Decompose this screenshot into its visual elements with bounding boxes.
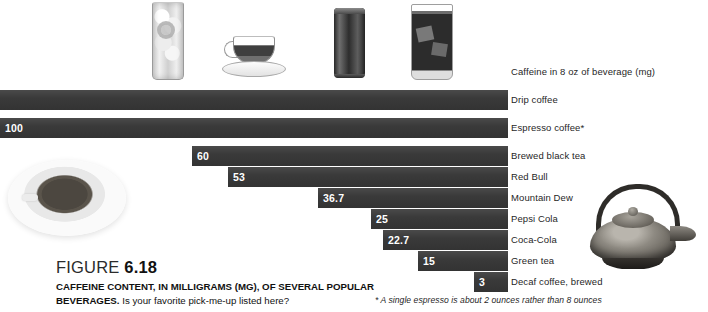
bar [0,118,508,138]
bar-value-label: 36.7 [318,188,344,208]
iced-cola-glass-photo [411,4,453,80]
figure-6-18: Caffeine in 8 oz of beverage (mg) Drip c… [0,0,708,312]
bar [318,188,508,208]
figure-description: CAFFEINE CONTENT, IN MILLIGRAMS (MG), OF… [56,280,416,307]
figure-caption: FIGURE 6.18 CAFFEINE CONTENT, IN MILLIGR… [56,258,416,307]
bar-row: 53Red Bull [0,167,708,187]
figure-footnote: * A single espresso is about 2 ounces ra… [375,295,705,305]
ice-cube-icon [416,25,435,42]
bar-category-label: Green tea [511,251,554,271]
bar-category-label: Coca-Cola [511,230,557,250]
bar-value-label: 60 [192,146,209,166]
ice-cube-icon [431,42,448,57]
bar [371,209,508,229]
figure-number-line: FIGURE 6.18 [56,258,416,277]
glass-teacup-photo [222,36,284,78]
bar-value-label: 100 [0,118,23,138]
bar-value-label: 22.7 [383,230,409,250]
bar-category-label: Brewed black tea [511,146,585,166]
bar-value-label: 15 [418,251,435,271]
iced-lemon-drink-photo [152,2,184,80]
bar-value-label: 25 [371,209,388,229]
bar [228,167,508,187]
bar [192,146,508,166]
bar-row: 60Brewed black tea [0,146,708,166]
legend-title: Caffeine in 8 oz of beverage (mg) [511,66,701,79]
bar-category-label: Decaf coffee, brewed [511,272,603,292]
teacup-saucer [222,61,286,77]
bar-row: 36.7Mountain Dew [0,188,708,208]
bar-category-label: Pepsi Cola [511,209,558,229]
can-base [334,74,365,78]
bar-category-label: Red Bull [511,167,548,187]
lemon-slice-icon [157,21,175,39]
cola-glass-rim [412,11,452,14]
figure-number: 6.18 [124,258,157,276]
can-lid [334,8,365,14]
bar-row: 25Pepsi Cola [0,209,708,229]
bar-row: Drip coffee [0,90,708,110]
energy-drink-can-photo [334,8,365,78]
bar-row: 22.7Coca-Cola [0,230,708,250]
bar-value-label: 3 [474,272,485,292]
bar-category-label: Mountain Dew [511,188,573,208]
figure-title-rest: Is your favorite pick-me-up listed here? [120,295,290,306]
bar-category-label: Espresso coffee* [511,118,584,138]
bar [0,90,508,110]
figure-number-prefix: FIGURE [56,258,124,276]
bar-row: 100Espresso coffee* [0,118,708,138]
bar-category-label: Drip coffee [511,90,558,110]
bar-value-label: 53 [228,167,245,187]
teacup-bowl [233,36,275,64]
